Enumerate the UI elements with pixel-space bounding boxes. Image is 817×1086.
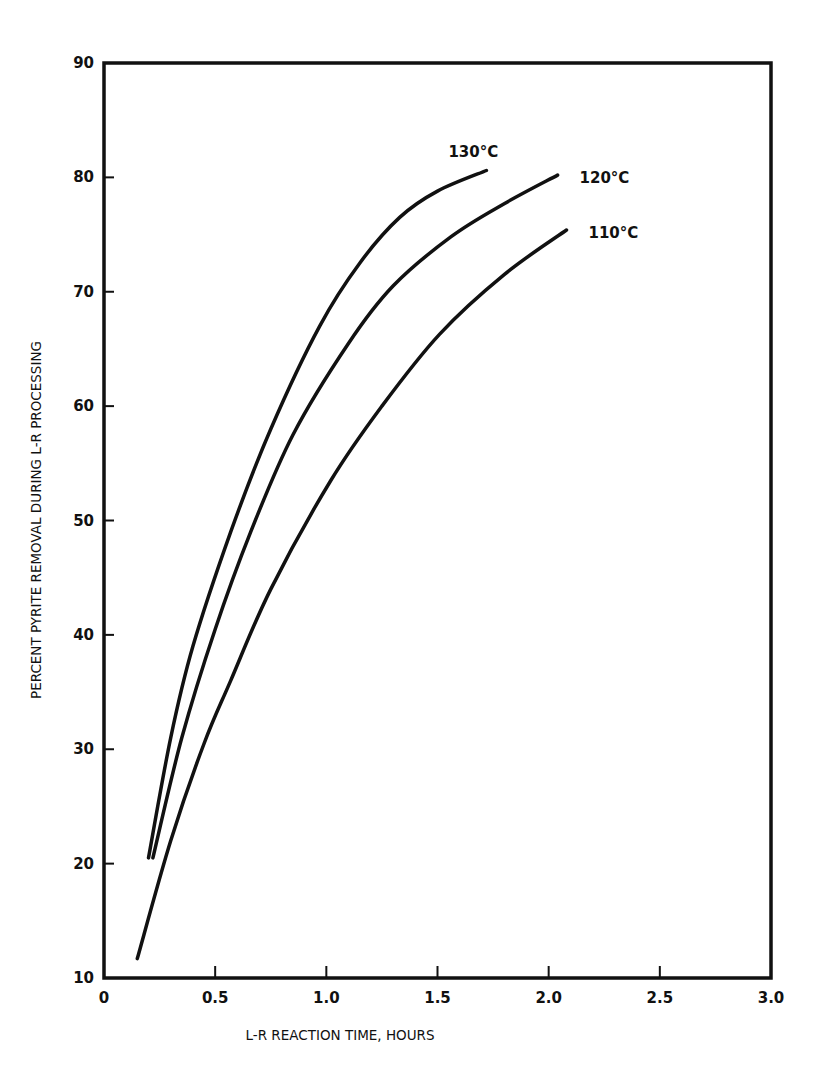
x-tick-label: 1.0 — [313, 989, 340, 1007]
series-label: 120°C — [580, 169, 630, 187]
y-tick-label: 70 — [73, 283, 94, 301]
y-axis-title: PERCENT PYRITE REMOVAL DURING L-R PROCES… — [28, 341, 44, 699]
y-tick-label: 30 — [73, 740, 94, 758]
x-tick-labels: 00.51.01.52.02.53.0 — [99, 989, 785, 1007]
x-tick-label: 2.5 — [647, 989, 674, 1007]
y-tick-label: 20 — [73, 855, 94, 873]
series-labels: 130°C120°C110°C — [448, 143, 638, 242]
x-tick-label: 3.0 — [758, 989, 785, 1007]
plot-border — [104, 63, 771, 978]
x-axis-title: L-R REACTION TIME, HOURS — [246, 1027, 435, 1043]
series-label: 130°C — [448, 143, 498, 161]
y-tick-label: 40 — [73, 626, 94, 644]
x-tick-label: 2.0 — [535, 989, 562, 1007]
x-tick-label: 0.5 — [202, 989, 229, 1007]
y-tick-label: 60 — [73, 397, 94, 415]
y-tick-label: 90 — [73, 54, 94, 72]
y-tick-label: 80 — [73, 168, 94, 186]
series-label: 110°C — [588, 224, 638, 242]
curve-120c — [153, 175, 558, 858]
plot-frame — [104, 63, 771, 978]
data-curves — [137, 171, 566, 959]
y-tick-label: 10 — [73, 969, 94, 987]
chart: 00.51.01.52.02.53.0 102030405060708090 1… — [0, 0, 817, 1086]
x-tick-label: 0 — [99, 989, 109, 1007]
y-tick-labels: 102030405060708090 — [73, 54, 94, 987]
y-tick-label: 50 — [73, 512, 94, 530]
x-tick-label: 1.5 — [424, 989, 451, 1007]
